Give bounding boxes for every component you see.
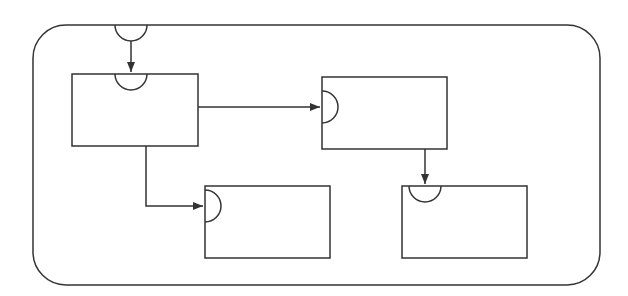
block-3[interactable]: [205, 186, 330, 258]
block-2[interactable]: [322, 77, 447, 149]
block-2-rect[interactable]: [322, 77, 447, 149]
block-diagram: [0, 0, 628, 296]
block-4[interactable]: [402, 186, 527, 258]
block-1[interactable]: [72, 74, 198, 146]
blocks-layer: [72, 74, 527, 258]
arrow-block-1-to-block-3: [146, 146, 203, 206]
container-port-icon: [115, 25, 147, 41]
block-1-rect[interactable]: [72, 74, 198, 146]
block-4-rect[interactable]: [402, 186, 527, 258]
block-3-rect[interactable]: [205, 186, 330, 258]
